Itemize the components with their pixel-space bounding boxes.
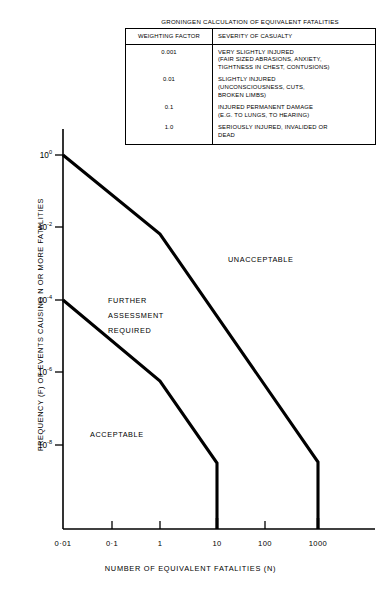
y-tick-label-1e-6: 10-6	[38, 366, 52, 377]
x-tick-label-10: 10	[212, 539, 221, 548]
upper-criterion-line	[63, 155, 318, 529]
plot-area: 100 10-2 10-4 10-6 10-8 0·01 0·1 1 10 10…	[0, 0, 381, 591]
x-tick-label-1: 1	[158, 539, 163, 548]
y-tick-label-1e-8: 10-8	[38, 439, 52, 450]
region-label-unacceptable: UNACCEPTABLE	[228, 255, 293, 264]
x-tick-label-1000: 1000	[309, 539, 328, 548]
x-tick-label-0.1: 0·1	[106, 539, 118, 548]
x-tick-label-0.01: 0·01	[55, 539, 72, 548]
region-label-further-assessment-line3: REQUIRED	[108, 326, 151, 335]
y-tick-label-1e-2: 10-2	[38, 221, 52, 232]
y-tick-label-1e-4: 10-4	[38, 294, 52, 305]
y-tick-label-1e0: 100	[40, 149, 52, 160]
risk-criterion-figure: GRONINGEN CALCULATION OF EQUIVALENT FATA…	[0, 0, 381, 591]
region-label-acceptable: ACCEPTABLE	[90, 430, 144, 439]
region-label-further-assessment-line1: FURTHER	[108, 296, 147, 305]
region-label-further-assessment-line2: ASSESSMENT	[108, 311, 164, 320]
x-tick-label-100: 100	[258, 539, 272, 548]
